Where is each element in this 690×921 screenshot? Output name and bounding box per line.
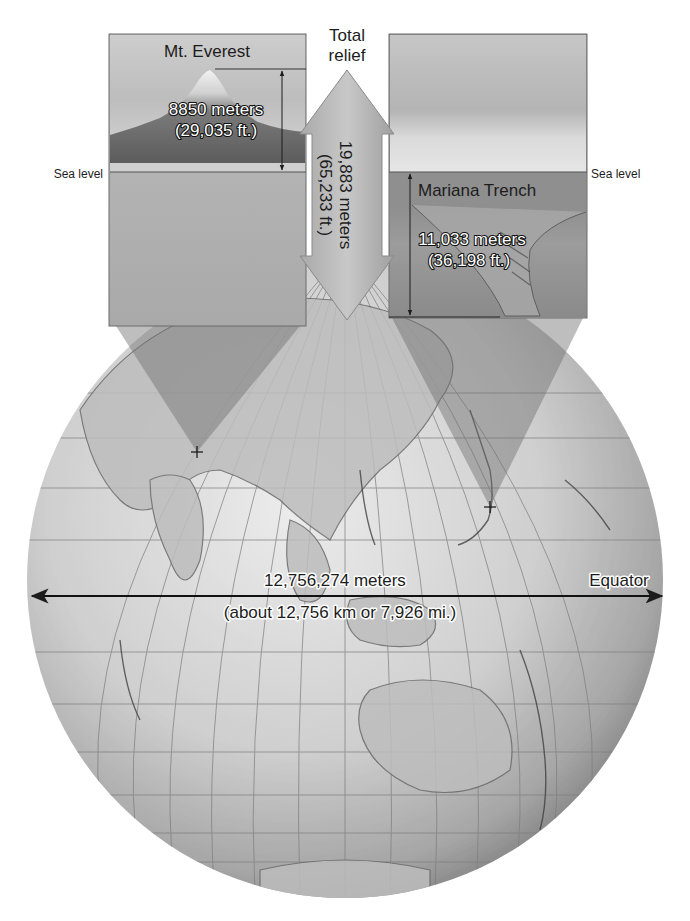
total-relief-label-line1: Total [329, 26, 365, 45]
trench-panel: Mariana Trench 11,033 meters (36,198 ft.… [389, 34, 587, 318]
sea-level-label-right: Sea level [591, 167, 640, 181]
diameter-approx: (about 12,756 km or 7,926 mi.) [224, 603, 456, 622]
everest-height-ft: (29,035 ft.) [175, 121, 257, 140]
diameter-meters: 12,756,274 meters [264, 571, 406, 590]
total-relief-value-m: 19,883 meters [336, 141, 355, 250]
equator-label: Equator [589, 571, 649, 590]
sea-level-label-left: Sea level [54, 167, 103, 181]
trench-title: Mariana Trench [418, 181, 536, 200]
total-relief-label-line2: relief [329, 46, 366, 65]
trench-depth-m: 11,033 meters [418, 230, 525, 249]
relief-diagram: Mt. Everest 8850 meters (29,035 ft.) Sea… [0, 0, 690, 921]
everest-panel: Mt. Everest 8850 meters (29,035 ft.) [109, 34, 306, 326]
total-relief-value-ft: (65,233 ft.) [316, 154, 335, 236]
trench-depth-ft: (36,198 ft.) [428, 251, 510, 270]
everest-height-m: 8850 meters [169, 100, 264, 119]
everest-title: Mt. Everest [164, 42, 250, 61]
